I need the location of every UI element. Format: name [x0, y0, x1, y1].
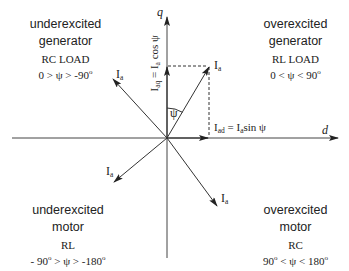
ia-label-upper-right: Ia — [214, 59, 221, 73]
angle-condition: 0 < ψ < 90o — [248, 68, 343, 81]
quadrant-title-line2: generator — [248, 34, 343, 48]
quadrant-title-line1: underexcited — [18, 17, 113, 31]
angle-condition: - 90o > ψ > -180o — [18, 254, 118, 267]
quadrant-title-line2: motor — [18, 220, 118, 234]
ia-label-lower-left: Ia — [106, 165, 113, 179]
angle-condition: 90o < ψ < 180o — [248, 254, 343, 267]
quadrant-title-line1: underexcited — [18, 203, 118, 217]
phasor-ia-lower-right — [167, 138, 217, 206]
ia-label-upper-left: Ia — [116, 68, 123, 82]
phasor-ia-upper-right — [167, 67, 209, 138]
quadrant-title-line2: motor — [248, 220, 343, 234]
load-type: RL LOAD — [248, 53, 343, 65]
iad-equation-label: Iad = Iasin ψ — [214, 122, 266, 135]
quadrant-underexcited-motor: underexcited motor RL - 90o > ψ > -180o — [18, 203, 118, 270]
phasor-ia-lower-left — [114, 138, 167, 182]
quadrant-title-line2: generator — [18, 34, 113, 48]
d-axis-label: d — [322, 124, 328, 136]
quadrant-overexcited-motor: overexcited motor RC 90o < ψ < 180o — [248, 203, 343, 270]
load-type: RC — [248, 239, 343, 251]
quadrant-underexcited-generator: underexcited generator RC LOAD 0 > ψ > -… — [18, 17, 113, 84]
iaq-equation-label: Iaq = Ia cos ψ — [149, 13, 162, 113]
phasor-diagram: q d ψ Ia Ia Ia Ia Iaq = Ia cos ψ Iad = I… — [0, 0, 349, 271]
load-type: RL — [18, 239, 118, 251]
load-type: RC LOAD — [18, 53, 113, 65]
quadrant-title-line1: overexcited — [248, 203, 343, 217]
ia-label-lower-right: Ia — [221, 192, 228, 206]
quadrant-title-line1: overexcited — [248, 17, 343, 31]
quadrant-overexcited-generator: overexcited generator RL LOAD 0 < ψ < 90… — [248, 17, 343, 84]
psi-angle-label: ψ — [170, 107, 178, 119]
angle-condition: 0 > ψ > -90o — [18, 68, 113, 81]
